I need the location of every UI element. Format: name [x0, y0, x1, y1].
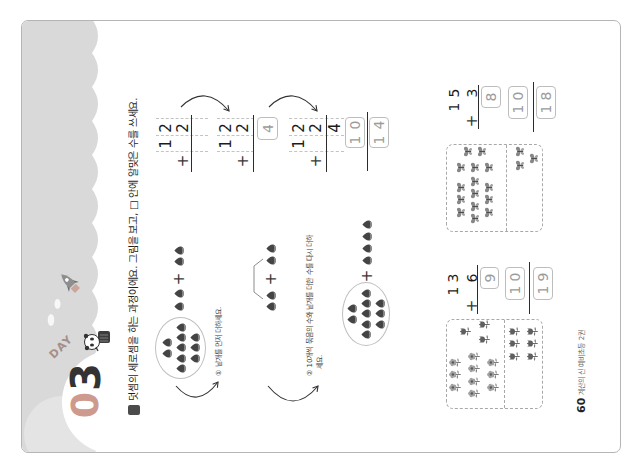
plus-sign: + [309, 155, 324, 168]
sum-line [191, 115, 192, 172]
chestnut-group [266, 245, 276, 266]
plus-sign: + [264, 273, 279, 286]
chestnut-icon [362, 257, 372, 266]
flower-icon [468, 388, 480, 399]
flower-icon [449, 370, 461, 381]
tulip-icon [459, 327, 471, 338]
butterfly-row [515, 147, 525, 172]
column-guide [289, 135, 344, 136]
ones-answer-box[interactable]: 4 [257, 117, 278, 140]
chestnut-icon [176, 323, 186, 332]
result-answer-box[interactable]: 18 [536, 86, 556, 119]
butterfly-column [463, 146, 487, 157]
column-guide [289, 151, 344, 152]
chestnut-icon [361, 299, 371, 308]
flower-icon [487, 357, 499, 368]
chestnut-icon [176, 364, 186, 373]
sum-line [253, 115, 254, 172]
butterfly-icon [470, 213, 480, 224]
ones-answer-box[interactable]: 9 [480, 267, 499, 289]
chestnut-icon [361, 330, 371, 339]
chestnut-icon [174, 258, 184, 267]
ten-butterfly-bundle [456, 176, 494, 224]
problem-marker-icon [128, 405, 140, 415]
flower-row [468, 351, 480, 400]
chestnut-icon [176, 333, 186, 342]
plus-sign: + [176, 155, 191, 168]
workbook-page: DAY 0 3 덧셈의 세로셈을 하는 과정이에요. 그림을 보고, □ 안에 … [21, 20, 621, 453]
picture-divider [506, 145, 507, 231]
column-guide [217, 151, 254, 152]
chestnut-icon [362, 245, 372, 254]
tens-answer-box[interactable]: 10 [505, 267, 525, 300]
tens-answer-box[interactable]: 10 [345, 117, 365, 148]
tulip-icon [526, 351, 538, 362]
chestnut-row [361, 289, 371, 339]
addend-1-tens: 1 [159, 139, 174, 149]
total-line [533, 82, 534, 132]
addend-2-ones: 3 [465, 89, 479, 98]
chestnut-group [174, 289, 184, 311]
tulip-icon [508, 339, 520, 350]
total-line [529, 262, 530, 314]
chestnut-row [190, 333, 200, 363]
addend-2-ones: 2 [236, 123, 251, 133]
column-guide [217, 118, 254, 119]
chestnut-group [362, 221, 372, 266]
butterfly-row [484, 182, 494, 218]
butterfly-icon [515, 161, 525, 172]
addend-1-ones: 3 [446, 274, 460, 283]
butterfly-icon [484, 182, 494, 193]
tulip-row [508, 326, 520, 362]
result-answer-box[interactable]: 19 [533, 267, 553, 300]
chestnut-icon [190, 333, 200, 342]
chestnut-row [162, 338, 172, 357]
ten-chestnut-bundle [155, 317, 206, 379]
cloud-icon [55, 299, 61, 309]
addend-1-tens: 1 [219, 139, 234, 149]
chestnut-icon [176, 344, 186, 353]
chestnut-row [176, 323, 186, 373]
flower-icon [468, 363, 480, 374]
result-answer-box[interactable]: 14 [369, 117, 389, 148]
addend-1-ones: 2 [292, 123, 307, 133]
cloud-icon [48, 314, 55, 326]
chestnut-icon [362, 233, 372, 242]
chestnut-icon [361, 310, 371, 319]
column-arc-arrow-1 [181, 96, 229, 111]
butterfly-icon [456, 195, 466, 206]
flower-icon [487, 370, 499, 381]
chestnut-icon [362, 221, 372, 230]
sum-line [477, 265, 478, 314]
day-number-second-digit: 3 [66, 363, 106, 391]
plus-sign: + [236, 155, 251, 168]
addend-1-ones: 5 [447, 89, 461, 98]
butterfly-icon [515, 147, 525, 158]
chestnut-icon [361, 289, 371, 298]
tulip-icon [478, 334, 490, 345]
tens-answer-box[interactable]: 10 [508, 86, 528, 119]
chestnut-icon [190, 354, 200, 363]
flower-icon [449, 357, 461, 368]
butterfly-row [529, 154, 539, 165]
butterfly-row [470, 176, 480, 225]
page-number: 60 [576, 398, 588, 413]
ones-answer-box[interactable]: 8 [481, 86, 501, 108]
tulip-icon [508, 326, 520, 337]
total-line [367, 112, 368, 171]
tulip-row [459, 327, 471, 338]
chestnut-row [375, 299, 385, 329]
tulip-icon [508, 351, 520, 362]
step-1-label: ① 낱개를 먼저 더하세요. [214, 307, 224, 376]
ones-sum: 4 [328, 123, 343, 133]
plus-sign: + [172, 273, 187, 286]
butterfly-icon [456, 207, 466, 218]
day-number-first-digit: 0 [66, 392, 104, 418]
added-butterfly-group [515, 145, 539, 173]
chestnut-icon [266, 245, 276, 254]
column-guide [289, 118, 344, 119]
chestnut-icon [174, 302, 184, 311]
butterfly-icon [529, 154, 539, 165]
butterfly-icon [456, 162, 466, 173]
column-guide [156, 118, 208, 119]
